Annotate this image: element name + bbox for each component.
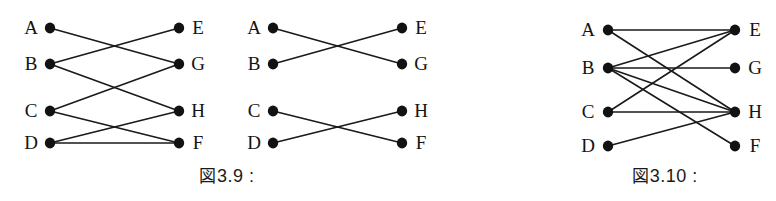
vertex-label-F: F [750,136,761,155]
caption-cjk-glyph: 図 [199,166,217,186]
graph-vertex-H [397,106,407,117]
graph-vertex-C [45,106,55,117]
graph-vertex-E [397,23,407,34]
vertex-label-G: G [191,54,205,73]
graph-vertex-F [174,138,184,149]
vertex-label-H: H [191,101,205,120]
vertex-label-E: E [415,18,427,37]
vertex-label-G: G [414,54,428,73]
vertex-label-A: A [24,18,38,37]
graph-vertex-D [268,138,278,149]
vertex-label-B: B [25,54,38,73]
vertex-label-F: F [416,133,427,152]
graph-vertex-D [45,138,55,149]
graph-vertex-G [174,59,184,70]
vertex-label-G: G [748,58,762,77]
vertex-label-C: C [25,101,38,120]
vertex-label-E: E [192,18,204,37]
bipartite-graph-figures: ABCDEGHFABCDEGHFABCDEGHF 図3.9 :図3.10 : [0,0,776,201]
graph-vertex-B [45,59,55,70]
vertex-label-D: D [581,136,595,155]
graph-vertex-G [730,63,740,74]
graph-vertex-A [603,25,613,36]
vertex-label-D: D [24,133,38,152]
vertex-label-E: E [749,20,761,39]
vertex-label-C: C [248,101,261,120]
graph-vertex-C [268,106,278,117]
graph-vertex-C [603,107,613,118]
graph-edge-B-F [608,68,735,146]
vertex-label-C: C [582,102,595,121]
vertex-label-A: A [247,18,261,37]
caption-number: 3.9 : [217,166,255,186]
vertex-label-B: B [248,54,261,73]
graph-vertex-F [730,141,740,152]
vertex-label-A: A [581,20,595,39]
graph-vertex-D [603,141,613,152]
graph-vertex-G [397,59,407,70]
graph-vertex-E [730,25,740,36]
graph-vertex-H [730,107,740,118]
graph-vertex-A [268,23,278,34]
graph-vertex-E [174,23,184,34]
vertex-label-B: B [582,58,595,77]
graph-edge-B-E [608,30,735,68]
caption-number: 3.10 : [650,166,698,186]
vertex-label-H: H [748,102,762,121]
graph-vertex-F [397,138,407,149]
graph-edge-D-H [608,112,735,146]
graph-vertex-H [174,106,184,117]
vertex-label-D: D [247,133,261,152]
vertex-label-F: F [193,133,204,152]
graph-vertex-B [603,63,613,74]
graph-vertex-B [268,59,278,70]
graph-vertex-A [45,23,55,34]
graph-edge-B-H [608,68,735,112]
figure-caption-figure-3-9: 図3.9 : [199,162,254,187]
caption-cjk-glyph: 図 [632,166,650,186]
figure-caption-figure-3-10: 図3.10 : [632,162,698,187]
vertex-label-H: H [414,101,428,120]
